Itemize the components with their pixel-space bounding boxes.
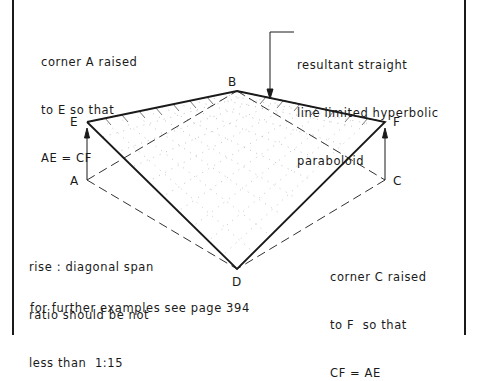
note-line: to F so that xyxy=(330,317,427,333)
note-corner-c: corner C raised to F so that CF = AE xyxy=(330,237,427,381)
note-line: line limited hyperbolic xyxy=(297,105,439,121)
note-line: less than 1:15 xyxy=(29,355,154,371)
note-line: paraboloid xyxy=(297,153,439,169)
footer-reference: for further examples see page 394 xyxy=(30,300,250,316)
note-line: CF = AE xyxy=(330,365,427,381)
note-line: corner A raised xyxy=(41,54,138,70)
point-label-b: B xyxy=(228,75,236,89)
leader-arrow xyxy=(267,32,294,99)
note-line: to E so that xyxy=(41,102,138,118)
note-corner-a: corner A raised to E so that AE = CF xyxy=(41,22,138,182)
note-line: resultant straight xyxy=(297,57,439,73)
note-line: rise : diagonal span xyxy=(29,259,154,275)
note-line: AE = CF xyxy=(41,150,138,166)
note-line: corner C raised xyxy=(330,269,427,285)
point-label-d: D xyxy=(232,275,241,289)
note-resultant-paraboloid: resultant straight line limited hyperbol… xyxy=(297,25,439,185)
